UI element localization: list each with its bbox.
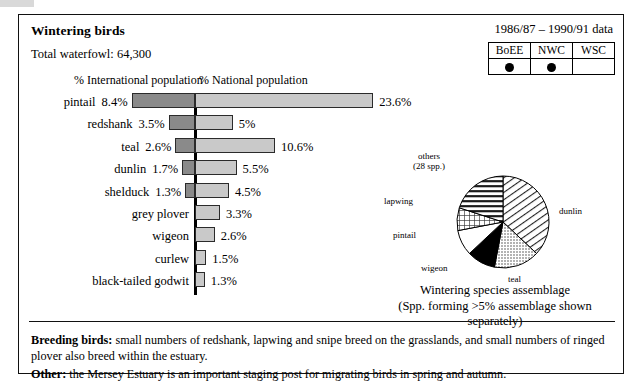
pie-caption-subtitle: (Spp. forming >5% assemblage shown separ… [371,299,619,330]
main-panel: Wintering birds Total waterfowl: 64,300 … [18,14,624,374]
bar-row: black-tailed godwit1.3% [19,270,419,292]
international-bar [185,183,195,198]
species-label: black-tailed godwit [92,274,189,289]
species-label: grey plover [132,207,189,222]
footer-divider [29,321,615,322]
pie-slice-label: wigeon [421,264,448,274]
international-bar [175,138,195,153]
national-bar [195,272,205,287]
breeding-birds-label: Breeding birds: [31,333,112,347]
national-value-label: 4.5% [235,185,261,200]
national-bar [195,205,220,220]
international-value-label: 8.4% [102,95,128,110]
designation-mark-wsc [573,59,615,75]
national-value-label: 10.6% [281,140,313,155]
designation-mark-row [489,59,615,75]
species-label: dunlin [114,162,146,177]
designation-table: BoEE NWC WSC [488,42,615,75]
national-value-label: 5% [239,117,256,132]
designation-col-boee: BoEE [489,43,531,59]
designation-mark-boee [489,59,531,75]
national-bar [195,115,233,130]
species-label: teal [121,140,139,155]
national-bar [195,183,229,198]
wintering-birds-figure: Wintering birds Total waterfowl: 64,300 … [0,0,642,388]
national-value-label: 2.6% [221,229,247,244]
species-label: pintail [64,95,96,110]
designation-col-nwc: NWC [531,43,573,59]
pie-slice-label: dunlin [559,207,582,217]
pie-slice-label: others(28 spp.) [413,152,445,172]
filled-dot-icon [547,63,556,72]
pie-caption-title: Wintering species assemblage [371,283,619,299]
page-title: Wintering birds [31,23,125,39]
international-value-label: 1.3% [155,185,181,200]
international-value-label: 1.7% [152,162,178,177]
national-axis-label: % National population [199,73,308,88]
species-label: curlew [155,252,189,267]
pie-slice-label: lapwing [384,197,413,207]
international-value-label: 2.6% [145,140,171,155]
national-value-label: 3.3% [226,207,252,222]
national-bar [195,138,275,153]
national-bar [195,250,206,265]
international-bar [132,93,195,108]
national-value-label: 1.5% [212,252,238,267]
national-bar [195,93,373,108]
bar-row: wigeon2.6% [19,225,419,247]
pie-caption: Wintering species assemblage (Spp. formi… [371,283,619,330]
national-bar [195,227,215,242]
designation-header-row: BoEE NWC WSC [489,43,615,59]
pie-slice-label: pintail [393,231,416,241]
filled-dot-icon [505,63,514,72]
total-waterfowl-text: Total waterfowl: 64,300 [31,47,151,62]
other-label: Other: [31,367,66,381]
breeding-birds-text: small numbers of redshank, lapwing and s… [31,333,605,363]
national-bar [195,160,237,175]
national-value-label: 1.3% [211,274,237,289]
bar-row: pintail8.4%23.6% [19,91,419,113]
bar-row: redshank3.5%5% [19,113,419,135]
pie-chart: dunlintealwigeonpintaillapwingothers(28 … [369,125,619,305]
designation-mark-nwc [531,59,573,75]
other-note: Other: the Mersey Estuary is an importan… [31,367,609,383]
species-label: shelduck [105,185,149,200]
bar-chart: pintail8.4%23.6%redshank3.5%5%teal2.6%10… [19,91,419,311]
designation-col-wsc: WSC [573,43,615,59]
data-years-label: 1986/87 – 1990/91 data [495,22,613,37]
bar-row: teal2.6%10.6% [19,136,419,158]
national-value-label: 5.5% [243,162,269,177]
international-axis-label: % International population [74,73,203,88]
bar-row: curlew1.5% [19,248,419,270]
bar-row: dunlin1.7%5.5% [19,158,419,180]
national-value-label: 23.6% [379,95,411,110]
international-bar [182,160,195,175]
international-value-label: 3.5% [139,117,165,132]
bar-row: grey plover3.3% [19,203,419,225]
top-edge-artifact [0,0,34,7]
species-label: wigeon [152,229,189,244]
international-bar [169,115,195,130]
species-label: redshank [87,117,132,132]
other-text: the Mersey Estuary is an important stagi… [66,367,506,381]
bar-row: shelduck1.3%4.5% [19,181,419,203]
breeding-birds-note: Breeding birds: small numbers of redshan… [31,333,609,365]
